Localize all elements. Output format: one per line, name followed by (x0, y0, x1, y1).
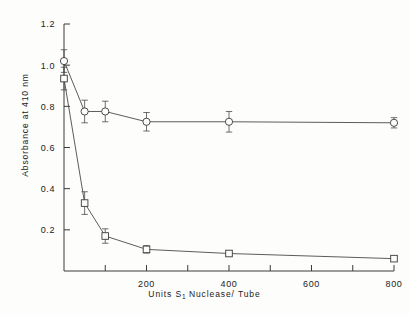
y-tick-label: 0.2 (41, 225, 55, 235)
data-point-square (81, 200, 88, 207)
x-tick-label: 600 (303, 279, 320, 289)
y-tick-label: 1.2 (41, 19, 55, 29)
y-tick-label: 0.8 (41, 102, 55, 112)
data-point-square (226, 250, 233, 257)
series-line-square (64, 79, 394, 259)
data-point-square (143, 246, 150, 253)
data-point-square (102, 233, 109, 240)
axis-spines (64, 24, 394, 271)
data-point-circle (102, 108, 109, 115)
data-point-circle (60, 57, 67, 64)
y-tick-label: 1.0 (41, 61, 55, 71)
x-tick-label: 800 (386, 279, 403, 289)
x-tick-label: 400 (221, 279, 238, 289)
x-tick-label: 200 (138, 279, 155, 289)
data-point-circle (81, 108, 88, 115)
y-tick-label: 0.4 (41, 184, 55, 194)
data-point-square (391, 255, 398, 262)
data-point-circle (390, 119, 397, 126)
data-point-circle (143, 118, 150, 125)
figure-canvas: Absorbance at 410 nm Units S1 Nuclease/ … (0, 0, 409, 315)
data-point-circle (225, 118, 232, 125)
chart-plot-area: 0.20.40.60.81.01.2200400600800 (0, 0, 409, 315)
data-point-square (61, 75, 68, 82)
y-tick-label: 0.6 (41, 143, 55, 153)
